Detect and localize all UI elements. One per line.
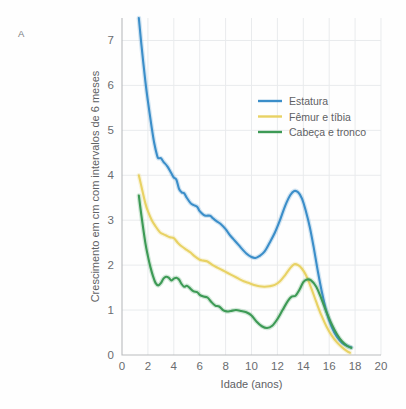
growth-velocity-line-chart: 02468101214161820 01234567 Idade (anos)C… bbox=[0, 0, 406, 409]
legend-label-estatura: Estatura bbox=[289, 95, 328, 107]
y-tick-label-4: 4 bbox=[108, 169, 115, 181]
legend-label-cabeca-e-tronco: Cabeça e tronco bbox=[289, 126, 366, 138]
x-tick-label-18: 18 bbox=[349, 360, 362, 372]
y-tick-label-3: 3 bbox=[108, 214, 114, 226]
y-axis-title: Crescimento em cm com intervalos de 6 me… bbox=[89, 70, 101, 302]
y-tick-label-2: 2 bbox=[108, 259, 114, 271]
x-tick-label-2: 2 bbox=[145, 360, 151, 372]
x-tick-label-20: 20 bbox=[375, 360, 388, 372]
x-tick-label-8: 8 bbox=[222, 360, 228, 372]
series-lines bbox=[139, 18, 351, 353]
x-tick-label-4: 4 bbox=[171, 360, 178, 372]
x-axis-title: Idade (anos) bbox=[221, 378, 283, 390]
y-tick-label-0: 0 bbox=[108, 349, 114, 361]
legend-label-femur-e-tibia: Fêmur e tíbia bbox=[289, 111, 351, 123]
x-tick-label-6: 6 bbox=[196, 360, 202, 372]
x-tick-label-10: 10 bbox=[245, 360, 258, 372]
x-axis-ticks: 02468101214161820 bbox=[119, 360, 388, 372]
x-tick-label-14: 14 bbox=[297, 360, 310, 372]
gridlines bbox=[122, 18, 381, 355]
x-tick-label-12: 12 bbox=[271, 360, 284, 372]
y-tick-label-5: 5 bbox=[108, 124, 114, 136]
figure-panel-a: A 02468101214161820 01234567 Idade (anos… bbox=[0, 0, 406, 409]
y-axis-ticks: 01234567 bbox=[108, 34, 115, 361]
x-tick-label-16: 16 bbox=[323, 360, 336, 372]
y-tick-label-6: 6 bbox=[108, 79, 114, 91]
y-tick-label-1: 1 bbox=[108, 304, 114, 316]
y-tick-label-7: 7 bbox=[108, 34, 114, 46]
axis-titles: Idade (anos)Crescimento em cm com interv… bbox=[89, 70, 282, 390]
x-tick-label-0: 0 bbox=[119, 360, 125, 372]
chart-legend: EstaturaFêmur e tíbiaCabeça e tronco bbox=[258, 95, 366, 138]
